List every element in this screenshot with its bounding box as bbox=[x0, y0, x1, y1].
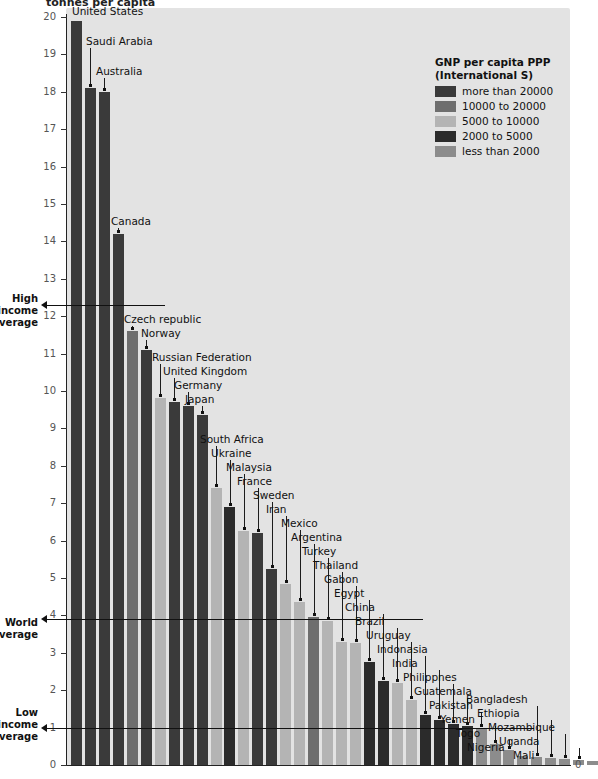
country-label-thailand: Thailand bbox=[313, 560, 358, 571]
y-tick-label-6: 6 bbox=[0, 536, 56, 546]
legend-label-3: 2000 to 5000 bbox=[462, 130, 533, 142]
leader-dot bbox=[382, 677, 385, 680]
country-label-united-kingdom: United Kingdom bbox=[163, 366, 247, 377]
leader-dot bbox=[159, 394, 162, 397]
reference-label-line: average bbox=[0, 731, 38, 743]
country-label-malaysia: Malaysia bbox=[226, 462, 272, 473]
leader-dot bbox=[341, 638, 344, 641]
bar-australia bbox=[99, 92, 110, 765]
reference-line-low_income bbox=[47, 728, 534, 729]
y-tick-label-7: 7 bbox=[0, 498, 56, 508]
legend-item-0[interactable]: more than 20000 bbox=[435, 85, 585, 97]
leader-dot bbox=[368, 658, 371, 661]
reference-arrow-low_income bbox=[41, 724, 47, 732]
y-tick-6 bbox=[61, 541, 67, 542]
country-label-philippnes: Philippnes bbox=[403, 672, 457, 683]
country-label-egypt: Egypt bbox=[334, 588, 364, 599]
bar-ethiopia bbox=[545, 758, 556, 765]
reference-arrow-world bbox=[41, 615, 47, 623]
country-label-france: France bbox=[237, 476, 272, 487]
y-tick-20 bbox=[61, 17, 67, 18]
leader-dot bbox=[89, 84, 92, 87]
y-tick-8 bbox=[61, 466, 67, 467]
y-tick-3 bbox=[61, 653, 67, 654]
leader-dot bbox=[355, 639, 358, 642]
y-tick-11 bbox=[61, 354, 67, 355]
legend-swatch-0 bbox=[435, 86, 456, 97]
country-label-guatemala: Guatemala bbox=[414, 686, 472, 697]
legend-swatch-4 bbox=[435, 146, 456, 157]
country-label-sweden: Sweden bbox=[253, 490, 295, 501]
leader-dot bbox=[299, 598, 302, 601]
country-label-ethiopia: Ethiopia bbox=[477, 708, 520, 719]
y-tick-label-13: 13 bbox=[0, 274, 56, 284]
bar-turkey bbox=[322, 621, 333, 765]
country-label-brazil: Brazil bbox=[355, 616, 384, 627]
leader-dot bbox=[313, 613, 316, 616]
country-label-china: China bbox=[345, 602, 375, 613]
reference-label-line: average bbox=[0, 629, 38, 641]
leader-dot bbox=[396, 679, 399, 682]
reference-label-world: Worldaverage bbox=[0, 617, 38, 641]
y-tick-18 bbox=[61, 92, 67, 93]
bar-mexico bbox=[294, 602, 305, 765]
y-tick-label-5: 5 bbox=[0, 573, 56, 583]
y-tick-label-18: 18 bbox=[0, 87, 56, 97]
leader-dot bbox=[536, 753, 539, 756]
legend-item-3[interactable]: 2000 to 5000 bbox=[435, 130, 585, 142]
leader-line bbox=[579, 748, 580, 756]
country-label-mexico: Mexico bbox=[281, 518, 318, 529]
leader-dot bbox=[550, 754, 553, 757]
country-label-iran: Iran bbox=[266, 504, 287, 515]
bar-brazil bbox=[392, 683, 403, 765]
legend-title-line2: (International S) bbox=[435, 69, 585, 82]
country-label-australia: Australia bbox=[96, 66, 142, 77]
leader-dot bbox=[131, 327, 134, 330]
y-tick-label-2: 2 bbox=[0, 685, 56, 695]
bar-ukraine bbox=[224, 507, 235, 765]
legend-title-line1: GNP per capita PPP bbox=[435, 56, 585, 69]
leader-dot bbox=[243, 527, 246, 530]
y-tick-15 bbox=[61, 204, 67, 205]
country-label-japan: Japan bbox=[185, 394, 214, 405]
country-label-ukraine: Ukraine bbox=[211, 448, 252, 459]
y-tick-19 bbox=[61, 54, 67, 55]
country-label-indonasia: Indonasia bbox=[377, 644, 428, 655]
reference-label-line: average bbox=[0, 317, 38, 329]
legend-label-1: 10000 to 20000 bbox=[462, 100, 546, 112]
country-label-saudi-arabia: Saudi Arabia bbox=[86, 36, 153, 47]
y-tick-17 bbox=[61, 129, 67, 130]
legend-swatch-2 bbox=[435, 116, 456, 127]
y-tick-2 bbox=[61, 690, 67, 691]
bar-united-states bbox=[71, 21, 82, 765]
country-label-india: India bbox=[392, 658, 418, 669]
bar-russian-federation bbox=[155, 398, 166, 765]
y-tick-label-16: 16 bbox=[0, 162, 56, 172]
legend-item-4[interactable]: less than 2000 bbox=[435, 145, 585, 157]
country-label-gabon: Gabon bbox=[324, 574, 358, 585]
country-label-canada: Canada bbox=[111, 216, 151, 227]
y-tick-label-15: 15 bbox=[0, 199, 56, 209]
bar-south-africa bbox=[211, 488, 222, 765]
legend-item-1[interactable]: 10000 to 20000 bbox=[435, 100, 585, 112]
reference-label-low_income: Lowincomeaverage bbox=[0, 707, 38, 743]
bar-indonasia bbox=[420, 715, 431, 765]
bar-argentina bbox=[308, 617, 319, 765]
reference-label-line: income bbox=[0, 719, 38, 731]
leader-dot bbox=[145, 346, 148, 349]
legend-label-4: less than 2000 bbox=[462, 145, 540, 157]
country-label-germany: Germany bbox=[174, 380, 222, 391]
reference-label-line: High bbox=[0, 293, 38, 305]
y-tick-7 bbox=[61, 503, 67, 504]
y-tick-13 bbox=[61, 279, 67, 280]
leader-line bbox=[425, 656, 426, 711]
legend-swatch-1 bbox=[435, 101, 456, 112]
legend-item-2[interactable]: 5000 to 10000 bbox=[435, 115, 585, 127]
bar-uruguay bbox=[406, 700, 417, 765]
leader-dot bbox=[103, 88, 106, 91]
bar-norway bbox=[141, 350, 152, 765]
country-label-togo: Togo bbox=[456, 728, 480, 739]
legend-swatch-3 bbox=[435, 131, 456, 142]
reference-line-high_income bbox=[47, 305, 165, 306]
